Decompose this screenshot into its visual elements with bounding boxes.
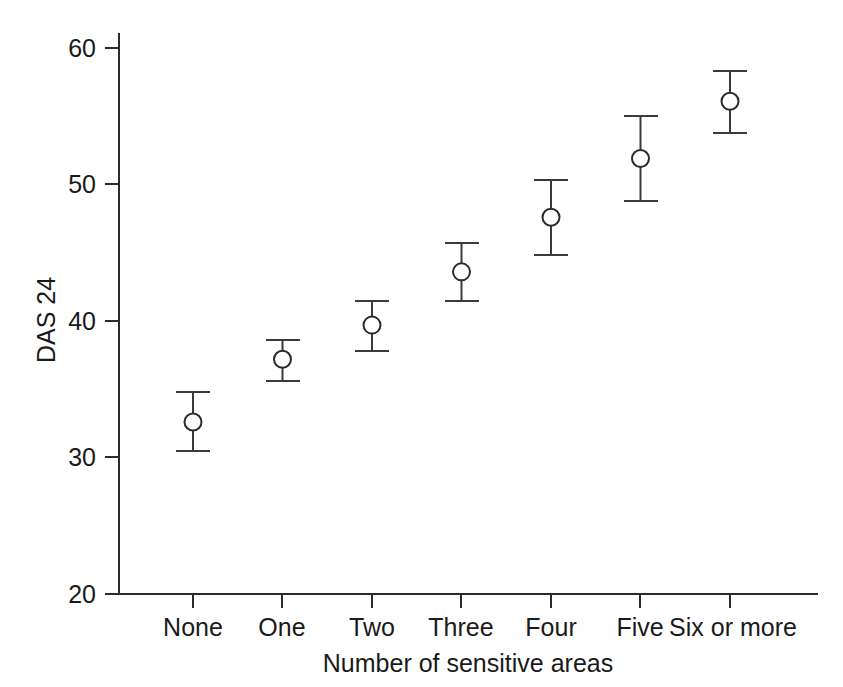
x-axis-title: Number of sensitive areas — [323, 649, 613, 677]
data-marker — [453, 263, 470, 280]
x-axis-ticks — [193, 594, 730, 608]
y-tick-label-50: 50 — [68, 170, 96, 198]
data-marker — [722, 93, 739, 110]
chart-container: 60 50 40 30 20 None One Two Three Four F… — [0, 0, 843, 687]
x-tick-label-five: Five — [616, 613, 663, 641]
data-point-6 — [713, 71, 747, 132]
y-axis-title: DAS 24 — [32, 277, 60, 363]
data-marker — [364, 317, 381, 334]
data-point-5 — [624, 116, 658, 201]
y-tick-label-20: 20 — [68, 580, 96, 608]
data-point-1 — [266, 340, 300, 381]
x-tick-label-three: Three — [428, 613, 493, 641]
x-tick-label-one: One — [258, 613, 305, 641]
data-point-0 — [176, 392, 210, 451]
x-tick-label-none: None — [163, 613, 223, 641]
data-point-3 — [445, 243, 479, 300]
y-tick-label-30: 30 — [68, 443, 96, 471]
data-marker — [543, 209, 560, 226]
data-point-2 — [355, 301, 389, 352]
data-points-layer — [176, 71, 747, 450]
data-point-4 — [534, 180, 568, 255]
data-marker — [185, 414, 202, 431]
x-axis-tick-labels: None One Two Three Four Five Six or more — [163, 613, 797, 641]
x-tick-label-six-or-more: Six or more — [669, 613, 797, 641]
x-tick-label-two: Two — [349, 613, 395, 641]
data-marker — [274, 351, 291, 368]
data-marker — [632, 150, 649, 167]
x-tick-label-four: Four — [525, 613, 576, 641]
error-bar-plot: 60 50 40 30 20 None One Two Three Four F… — [0, 0, 843, 687]
y-axis-tick-labels: 60 50 40 30 20 — [68, 34, 96, 608]
y-tick-label-40: 40 — [68, 307, 96, 335]
y-tick-label-60: 60 — [68, 34, 96, 62]
y-axis-ticks — [105, 48, 119, 594]
